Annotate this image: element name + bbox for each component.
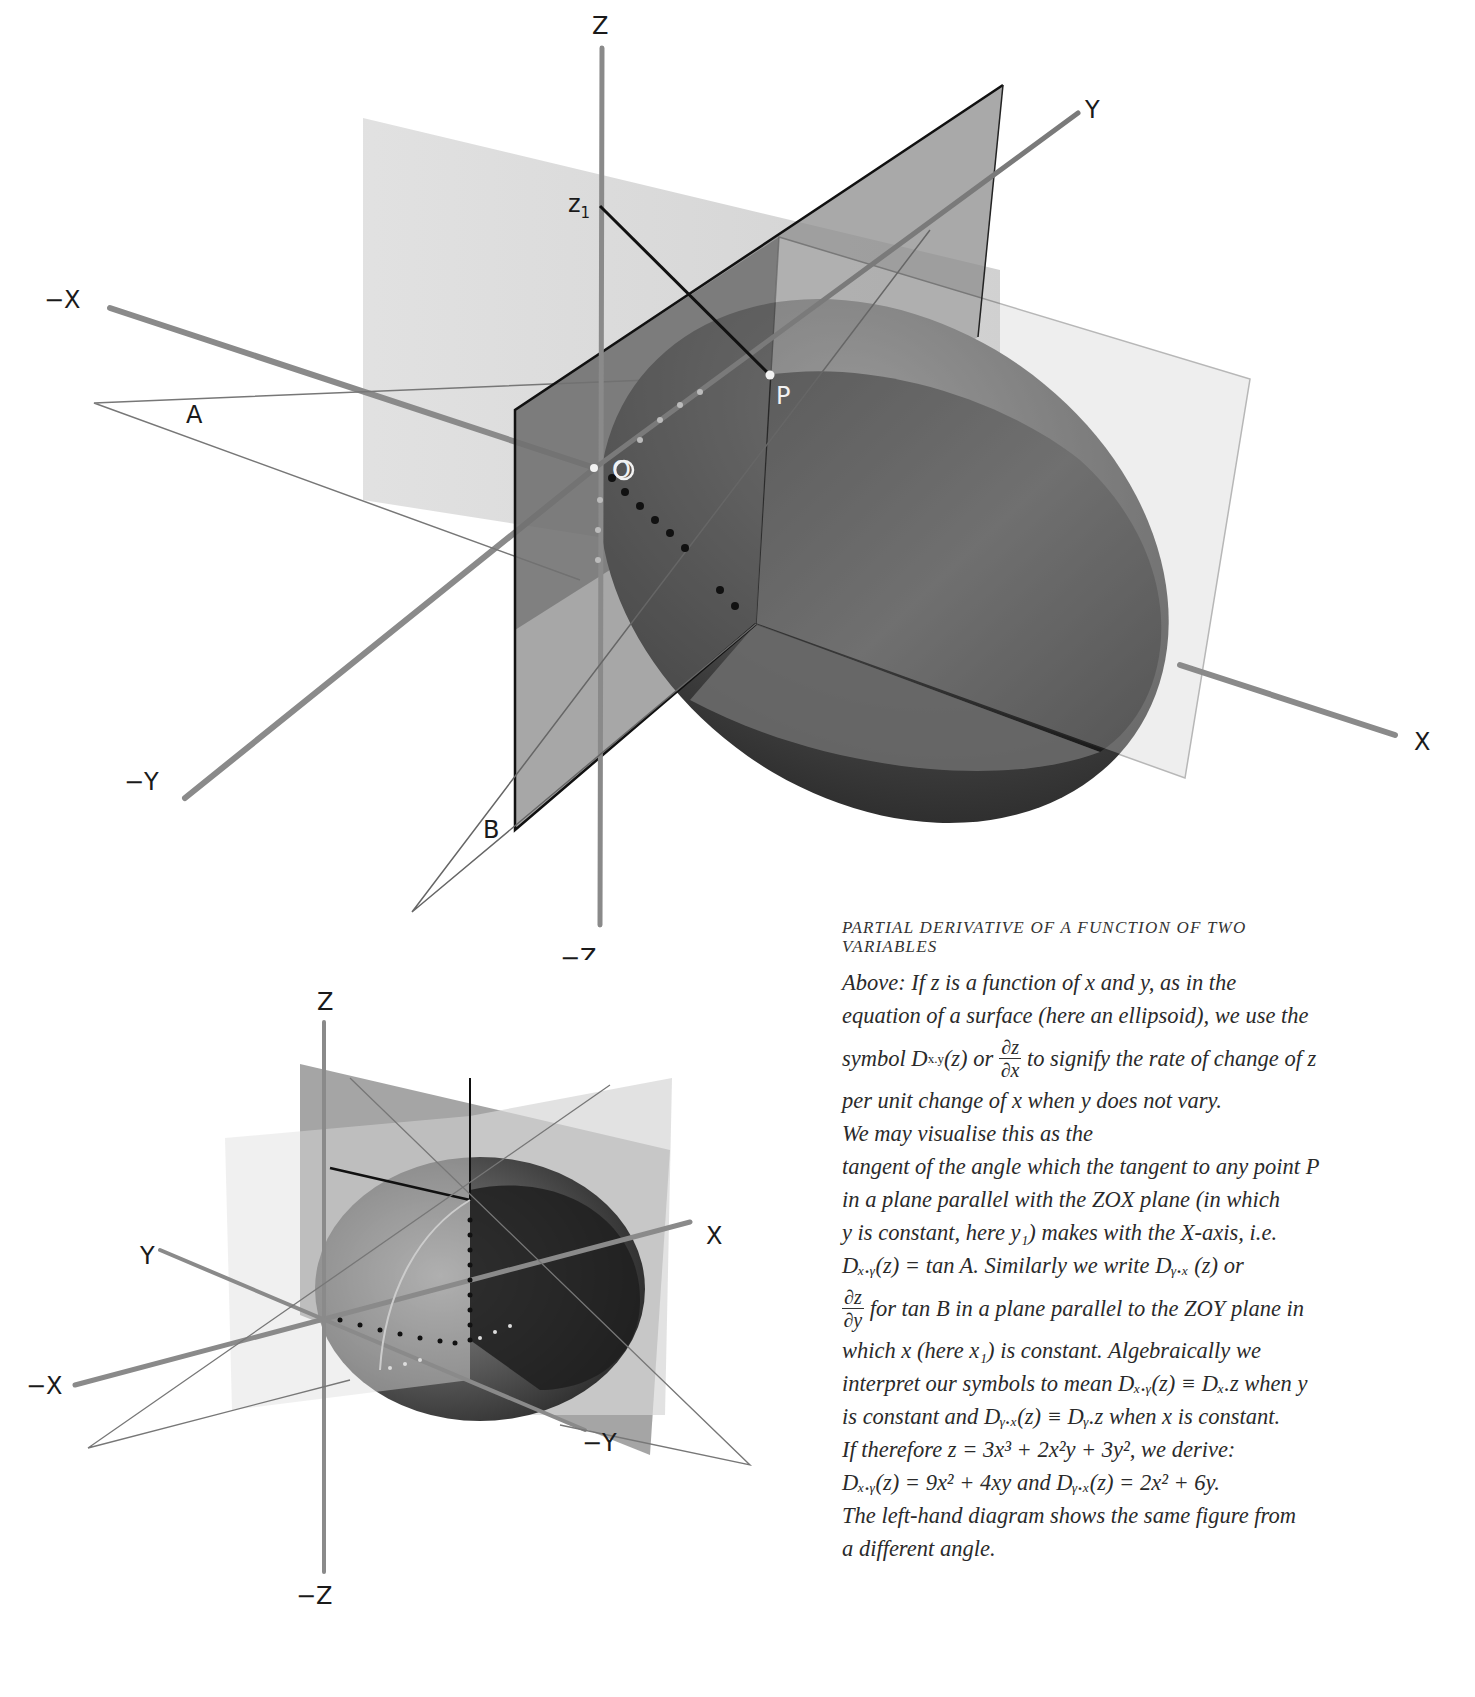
partial-z-partial-y-fraction: ∂z∂y [842,1286,864,1331]
caption-text: for tan B in a plane parallel to the ZOY… [870,1292,1304,1325]
caption-line: y is constant, here y₁) makes with the X… [842,1216,1462,1249]
neg-z-label: −Z [296,1582,333,1610]
partial-z-partial-x-fraction: ∂z∂x [999,1036,1021,1081]
caption-line: Dₓ.ᵧ(z) = 9x² + 4xy and Dᵧ.ₓ(z) = 2x² + … [842,1466,1462,1499]
z-label: Z [317,988,333,1016]
x-label: X [706,1222,722,1250]
y-label: Y [1084,96,1100,124]
z-label: Z [592,12,608,40]
neg-y-label: −Y [582,1429,617,1457]
y-label: Y [139,1242,155,1270]
caption-text: to signify the rate of change of z [1027,1042,1316,1075]
caption-line: which x (here x₁) is constant. Algebraic… [842,1334,1462,1367]
caption-line: per unit change of x when y does not var… [842,1084,1462,1117]
x-label: X [1414,728,1430,756]
top-ellipsoid-diagram: Z −Z −X X Y −Y z1 P O A B [0,0,1475,960]
caption-line: is constant and Dᵧ.ₓ(z) ≡ Dᵧ.z when x is… [842,1400,1462,1433]
caption-heading-line-2: VARIABLES [842,937,1462,956]
caption-tanb-line: ∂z∂y for tan B in a plane parallel to th… [842,1282,1462,1334]
z-axis [600,48,602,925]
caption-heading-line-1: PARTIAL DERIVATIVE OF A FUNCTION OF TWO [842,918,1462,937]
o-label: O [612,456,631,484]
caption-line: Dₓ.ᵧ(z) = tan A. Similarly we write Dᵧ.ₓ… [842,1249,1462,1282]
caption-heading: PARTIAL DERIVATIVE OF A FUNCTION OF TWO … [842,918,1462,956]
caption-line: Above: If z is a function of x and y, as… [842,966,1462,999]
neg-x-label: −X [26,1372,63,1400]
b-label: B [483,816,499,844]
caption-line: a different angle. [842,1532,1462,1565]
caption-text: symbol D [842,1042,928,1075]
origin-dot [590,464,598,472]
bottom-ellipsoid-diagram: Z −Z X −X Y −Y [0,960,800,1697]
caption-symbol-line: symbol Dx.y (z) or ∂z∂x to signify the r… [842,1032,1462,1084]
caption-line: If therefore z = 3x³ + 2x²y + 3y², we de… [842,1433,1462,1466]
neg-x-label: −X [44,286,81,314]
neg-z-label: −Z [560,944,597,960]
caption-line: interpret our symbols to mean Dₓ.ᵧ(z) ≡ … [842,1367,1462,1400]
a-label: A [186,401,203,429]
caption-text: (z) or [944,1042,993,1075]
caption-line: in a plane parallel with the ZOX plane (… [842,1183,1462,1216]
neg-y-label: −Y [124,768,159,796]
caption-line: equation of a surface (here an ellipsoid… [842,999,1462,1032]
p-label: P [776,382,790,410]
caption-subscript: x.y [928,1042,944,1075]
figure-caption: PARTIAL DERIVATIVE OF A FUNCTION OF TWO … [842,918,1462,1565]
caption-line: tangent of the angle which the tangent t… [842,1150,1462,1183]
caption-line: The left-hand diagram shows the same fig… [842,1499,1462,1532]
point-p [766,371,775,380]
caption-line: We may visualise this as the [842,1117,1462,1150]
x-axis [1180,665,1395,735]
